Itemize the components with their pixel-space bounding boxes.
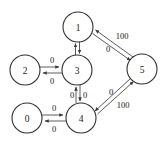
node-1[interactable]: 1 [63,12,93,42]
node-1-label: 1 [76,23,81,33]
node-0[interactable]: 0 [12,103,42,133]
edge-label-3-2: 0 [50,76,54,86]
edge-label-3-4: 0 [83,90,87,100]
graph-canvas-svg: 1 5 2 3 0 4 100 0 0 100 0 0 0 0 0 [0,0,163,148]
node-4-label: 4 [79,114,84,124]
node-0-label: 0 [25,114,30,124]
node-3-label: 3 [75,66,80,76]
edge-label-4-5: 100 [117,100,130,110]
edge-label-5-4: 0 [109,87,113,97]
edge-label-4-3: 0 [70,90,74,100]
edge-label-0-4: 0 [52,103,56,113]
edge-label-5-1: 0 [106,44,110,54]
edge-label-4-0: 0 [52,124,56,134]
node-4[interactable]: 4 [66,103,96,133]
node-5[interactable]: 5 [127,54,157,84]
edge-label-2-3: 0 [50,55,54,65]
graph-diagram: 1 5 2 3 0 4 100 0 0 100 0 0 0 0 0 [0,0,163,148]
node-3[interactable]: 3 [62,55,92,85]
node-2-label: 2 [23,66,28,76]
node-5-label: 5 [140,65,145,75]
edge-label-1-5: 100 [116,31,129,41]
node-2[interactable]: 2 [10,55,40,85]
